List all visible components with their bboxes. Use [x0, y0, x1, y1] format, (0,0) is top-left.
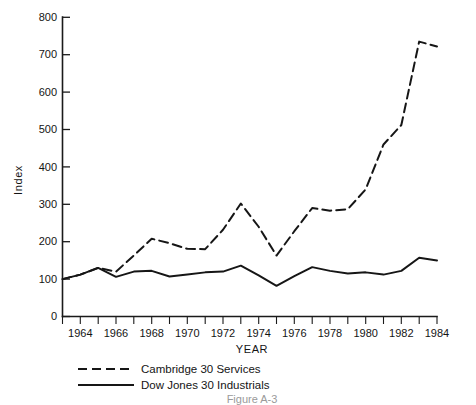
- x-tick-label-1984: 1984: [425, 327, 449, 339]
- x-axis-ticks: [63, 317, 438, 325]
- x-axis-tick-labels: 1964 1966 1968 1970 1972 1974 1976 1978 …: [68, 327, 449, 339]
- x-tick-label-1972: 1972: [211, 327, 235, 339]
- y-tick-label-500: 500: [39, 123, 57, 135]
- line-chart: 0 100 200 300 400 500 600 700 800 Index: [0, 0, 476, 405]
- x-tick-label-1964: 1964: [68, 327, 92, 339]
- y-tick-label-0: 0: [51, 310, 57, 322]
- y-tick-label-600: 600: [39, 86, 57, 98]
- x-tick-label-1976: 1976: [282, 327, 306, 339]
- x-tick-label-1968: 1968: [139, 327, 163, 339]
- y-tick-label-300: 300: [39, 198, 57, 210]
- x-tick-label-1970: 1970: [175, 327, 199, 339]
- x-axis-title: YEAR: [236, 343, 268, 355]
- y-tick-label-200: 200: [39, 235, 57, 247]
- x-tick-label-1982: 1982: [389, 327, 413, 339]
- y-axis-ticks: 0 100 200 300 400 500 600 700 800: [39, 11, 70, 322]
- x-tick-label-1966: 1966: [104, 327, 128, 339]
- legend-label-dow-jones-30-industrials: Dow Jones 30 Industrials: [141, 379, 270, 391]
- series-line-cambridge-30-services: [63, 42, 438, 279]
- y-tick-label-800: 800: [39, 11, 57, 23]
- x-tick-label-1978: 1978: [318, 327, 342, 339]
- x-tick-label-1980: 1980: [353, 327, 377, 339]
- chart-legend: Cambridge 30 Services Dow Jones 30 Indus…: [78, 363, 270, 391]
- legend-label-cambridge-30-services: Cambridge 30 Services: [141, 363, 261, 375]
- y-tick-label-100: 100: [39, 273, 57, 285]
- figure-container: 0 100 200 300 400 500 600 700 800 Index: [0, 0, 476, 405]
- series-line-dow-jones-30-industrials: [63, 258, 438, 286]
- y-tick-label-700: 700: [39, 48, 57, 60]
- y-axis-title: Index: [12, 165, 24, 195]
- y-tick-label-400: 400: [39, 161, 57, 173]
- x-tick-label-1974: 1974: [246, 327, 270, 339]
- figure-caption: Figure A-3: [227, 393, 278, 405]
